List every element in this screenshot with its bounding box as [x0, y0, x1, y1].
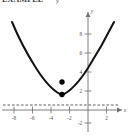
parabola-figure: EXAMPLE y -8 -6 -4 -2 2 -2: [0, 0, 130, 140]
parabola-plot: -8 -6 -4 -2 2 -2 2 4 6 8 x y: [0, 0, 130, 140]
x-tick-label-2: 2: [105, 115, 108, 121]
x-tick-label-minus6: -6: [30, 115, 35, 121]
x-axis-arrow: [117, 108, 122, 113]
x-tick-label-minus2: -2: [67, 115, 72, 121]
y-axis-label: y: [90, 8, 94, 14]
y-tick-label-8: 8: [79, 31, 82, 37]
y-tick-label-6: 6: [79, 50, 82, 56]
vertex-point: [59, 92, 64, 97]
y-tick-label-2: 2: [79, 88, 82, 94]
figure-caption-variable: y: [56, 0, 59, 5]
x-tick-label-minus8: -8: [12, 115, 17, 121]
focus-point: [59, 79, 64, 84]
figure-caption: EXAMPLE: [2, 0, 82, 4]
x-tick-label-minus4: -4: [49, 115, 54, 121]
y-tick-label-minus2: -2: [78, 120, 83, 126]
y-tick-label-4: 4: [79, 69, 82, 75]
y-axis-arrow: [86, 12, 91, 17]
x-axis-label: x: [123, 107, 127, 113]
